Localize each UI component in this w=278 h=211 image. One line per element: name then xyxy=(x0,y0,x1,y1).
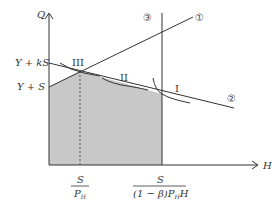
x-tick-1-denominator: PH xyxy=(73,188,87,200)
y-tick-yS: Y + S xyxy=(17,81,45,92)
y-axis-label: Q xyxy=(37,9,45,20)
line-3-label: ③ xyxy=(143,12,152,23)
point-II-label: II xyxy=(120,72,128,83)
x-tick-2-denominator: (1 − β)PHH xyxy=(133,188,189,200)
shaded-region xyxy=(49,71,162,165)
x-axis-label: H xyxy=(262,160,272,171)
line-2-label: ② xyxy=(227,93,236,104)
y-tick-ykS: Y + kS xyxy=(15,57,49,68)
x-tick-2-numerator: S xyxy=(157,174,164,185)
x-tick-1-numerator: S xyxy=(77,174,84,185)
point-III-label: III xyxy=(72,57,84,68)
point-I-label: I xyxy=(175,83,179,94)
line-1-label: ① xyxy=(195,12,204,23)
diagram-canvas: Q H Y + kS Y + S ① ② ③ I II III S PH S (… xyxy=(0,0,278,211)
